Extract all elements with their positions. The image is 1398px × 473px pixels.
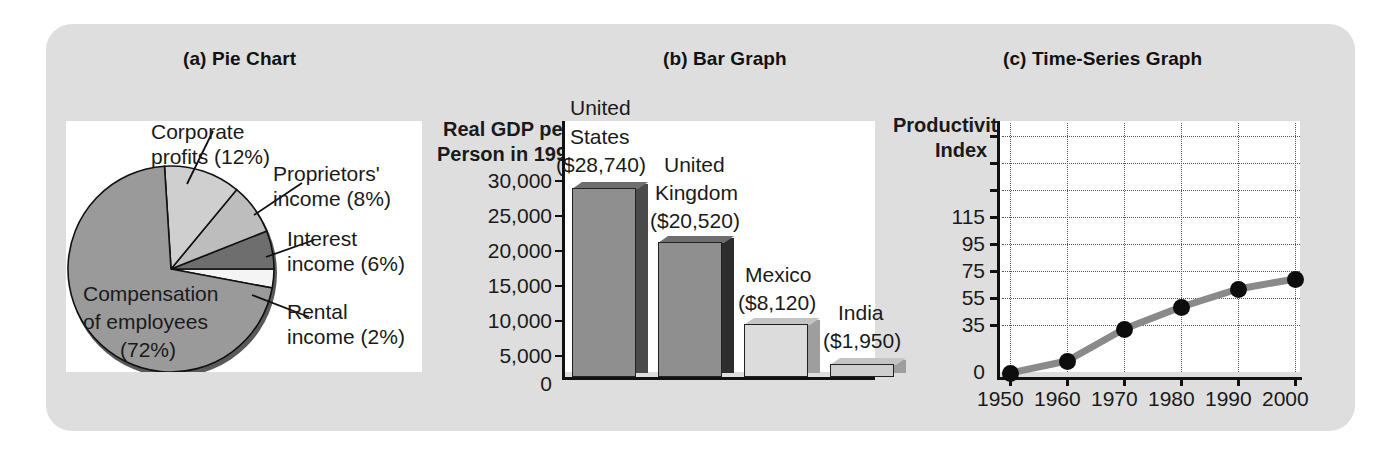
bar-tick-5000 xyxy=(555,355,564,357)
ts-series-svg xyxy=(990,115,1310,385)
ts-ytick-95: 95 xyxy=(915,232,985,256)
bar-tick-10000 xyxy=(555,320,564,322)
ts-point-1980 xyxy=(1173,299,1190,316)
bar-ytick-25000: 25,000 xyxy=(452,204,552,228)
ts-ytick-0: 0 xyxy=(915,360,985,384)
pie-label-proprietors-line2: income (8%) xyxy=(273,186,391,211)
pie-label-interest-line1: Interest xyxy=(287,226,357,251)
panel-title-pie: (a) Pie Chart xyxy=(183,48,296,70)
ts-ytick-55: 55 xyxy=(915,286,985,310)
ts-xtick-2000: 2000 xyxy=(1262,386,1309,411)
bar-ytick-15000: 15,000 xyxy=(452,274,552,298)
pie-chart-card: Corporate profits (12%) Proprietors' inc… xyxy=(66,121,422,372)
ts-ytick-75: 75 xyxy=(915,259,985,283)
bar-ytick-5000: 5,000 xyxy=(452,344,552,368)
bar-tick-30000 xyxy=(555,180,564,182)
bar-ytick-30000: 30,000 xyxy=(452,169,552,193)
bar-label-india-line1: India xyxy=(838,300,884,325)
bar-ytick-20000: 20,000 xyxy=(452,239,552,263)
bar-ytick-0: 0 xyxy=(452,372,552,396)
pie-label-compensation-line1: Compensation xyxy=(83,281,218,306)
bar-label-mexico-line1: Mexico xyxy=(745,262,812,287)
ts-xtick-1970: 1970 xyxy=(1091,386,1138,411)
pie-label-proprietors-line1: Proprietors' xyxy=(273,161,380,186)
ts-ytick-115: 115 xyxy=(915,205,985,229)
pie-label-rental-line2: income (2%) xyxy=(287,324,405,349)
ts-xtick-1990: 1990 xyxy=(1205,386,1252,411)
bar-label-us-line2: States xyxy=(570,124,630,149)
bar-x-axis xyxy=(562,377,875,380)
panel-title-bar: (b) Bar Graph xyxy=(663,48,787,70)
ts-point-2000 xyxy=(1287,271,1304,288)
ts-point-1960 xyxy=(1059,353,1076,370)
bar-label-us-line3: ($28,740) xyxy=(556,152,646,177)
pie-label-compensation-line2: of employees xyxy=(83,309,208,334)
figure-root: (a) Pie Chart (b) Bar Graph (c) Time-Ser… xyxy=(0,0,1398,473)
ts-xtick-1980: 1980 xyxy=(1148,386,1195,411)
pie-label-corporate-line1: Corporate xyxy=(151,119,244,144)
ts-xtick-1960: 1960 xyxy=(1034,386,1081,411)
bar-label-uk-line3: ($20,520) xyxy=(650,208,740,233)
bar-ytick-10000: 10,000 xyxy=(452,309,552,333)
bar-tick-20000 xyxy=(555,250,564,252)
ts-point-1970 xyxy=(1116,321,1133,338)
bar-label-us-line1: United xyxy=(570,95,631,120)
ts-xtick-1950: 1950 xyxy=(977,386,1024,411)
bar-tick-15000 xyxy=(555,285,564,287)
bar-tick-25000 xyxy=(555,215,564,217)
bar-label-mexico-line2: ($8,120) xyxy=(738,290,816,315)
pie-label-compensation-line3: (72%) xyxy=(120,337,176,362)
ts-axis-title-line2: Index xyxy=(935,138,987,163)
ts-ytick-35: 35 xyxy=(915,313,985,337)
panel-title-timeseries: (c) Time-Series Graph xyxy=(1003,48,1202,70)
ts-series-line xyxy=(1010,279,1295,373)
bar-label-india-line2: ($1,950) xyxy=(823,328,901,353)
bar-label-uk-line1: United xyxy=(664,152,725,177)
pie-label-interest-line2: income (6%) xyxy=(287,251,405,276)
bar-axis-title-line1: Real GDP per xyxy=(443,117,570,142)
pie-label-rental-line1: Rental xyxy=(287,299,348,324)
pie-label-corporate-line2: profits (12%) xyxy=(151,144,270,169)
bar-label-uk-line2: Kingdom xyxy=(655,180,738,205)
ts-point-1950 xyxy=(1002,365,1019,382)
ts-point-1990 xyxy=(1230,281,1247,298)
